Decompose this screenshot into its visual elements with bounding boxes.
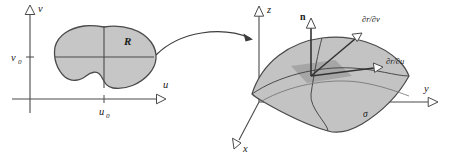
u-axis-label: u: [163, 79, 168, 90]
x-axis-line: [239, 102, 259, 140]
mapping-arrowhead-icon: [244, 34, 254, 42]
diagram-canvas: v u v 0 u 0 R: [0, 0, 449, 161]
surface-sigma: [252, 37, 409, 132]
u-axis-arrowhead-icon: [157, 94, 167, 104]
y-axis-arrowhead-icon: [428, 97, 438, 106]
right-panel-xyz: z y x: [233, 4, 439, 154]
v0-label: v: [11, 52, 16, 63]
u-axis: [12, 94, 166, 104]
z-axis-label: z: [266, 4, 271, 15]
u0-label-subscript: 0: [106, 112, 110, 120]
normal-vector-arrowhead-icon: [306, 18, 315, 28]
v0-label-subscript: 0: [18, 58, 22, 66]
y-axis-label: y: [423, 83, 429, 94]
surface-patch-shape: [252, 37, 409, 132]
mapping-arrow-curve: [156, 32, 250, 55]
z-axis-arrowhead-icon: [254, 6, 263, 16]
x-axis-arrowhead-icon: [233, 138, 242, 149]
figure-root: v u v 0 u 0 R: [0, 0, 449, 161]
v-axis-label: v: [38, 3, 43, 14]
v-axis: [25, 5, 35, 113]
mapping-arrow: [156, 32, 253, 55]
tangent-dv-label: ∂r/∂v: [362, 14, 380, 24]
left-panel-uv-plane: v u v 0 u 0 R: [11, 3, 168, 120]
normal-vector-label: n: [300, 11, 306, 22]
region-R-label: R: [123, 35, 131, 47]
v-axis-arrowhead-icon: [25, 5, 35, 15]
tangent-du-label: ∂r/∂u: [386, 56, 404, 66]
x-axis-label: x: [242, 143, 248, 154]
x-axis: [233, 102, 260, 149]
surface-sigma-label: σ: [363, 109, 368, 119]
u0-label: u: [99, 106, 104, 117]
